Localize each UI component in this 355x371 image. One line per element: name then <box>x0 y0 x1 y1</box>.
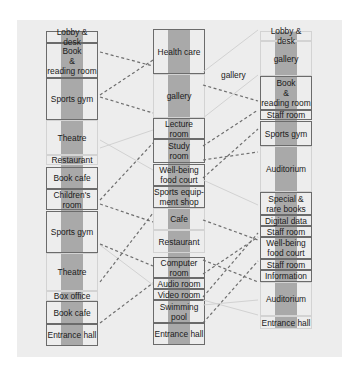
room-label: Auditorium <box>266 164 306 174</box>
room-block: Video room <box>153 289 205 300</box>
room-label: Box office <box>54 291 91 301</box>
room-label: Well-beingfood court <box>159 165 198 185</box>
room-label: Staff room <box>267 110 305 120</box>
room-block: Lectureroom <box>153 118 205 139</box>
room-label: Health care <box>158 47 201 57</box>
room-block: Audio room <box>153 278 205 289</box>
room-label: Book&reading room <box>261 78 310 108</box>
room-label: Studyroom <box>168 141 189 161</box>
room-label: Entrance hall <box>262 318 311 328</box>
room-label: Theatre <box>58 267 87 277</box>
room-label: Swimmingpool <box>160 302 199 322</box>
room-block: Entrance hall <box>260 316 312 329</box>
room-block: Book cafe <box>46 301 98 324</box>
room-block: Sports gym <box>260 121 312 146</box>
room-block: Theatre <box>46 253 98 291</box>
room-block: Digital data <box>260 215 312 226</box>
room-label: Information <box>265 271 307 281</box>
room-label: Sports equip-ment shop <box>154 187 204 207</box>
room-label: Entrance hall <box>48 330 97 340</box>
room-label: Video room <box>158 290 201 300</box>
room-label: Cafe <box>170 214 188 224</box>
room-block: Entrance hall <box>153 323 205 345</box>
room-label: gallery <box>274 54 299 64</box>
room-label: Lectureroom <box>165 119 193 139</box>
room-label: Lobby & desk <box>261 26 311 46</box>
room-label: Staff room <box>267 260 305 270</box>
gallery-floating-label: gallery <box>221 70 246 80</box>
room-label: Restaurant <box>52 155 93 165</box>
room-label: Theatre <box>58 133 87 143</box>
diagram-panel: Lobby & deskBook&reading roomSports gymT… <box>17 20 342 357</box>
room-block: Sports gym <box>46 78 98 120</box>
room-block: Well-beingfood court <box>153 164 205 186</box>
room-block: Auditorium <box>260 146 312 192</box>
room-label: Computerroom <box>161 258 198 278</box>
room-block: Lobby & desk <box>260 31 312 41</box>
room-block: Box office <box>46 291 98 301</box>
room-block: Sports gym <box>46 211 98 253</box>
room-label: Restaurant <box>159 237 200 247</box>
room-label: Staff room <box>267 227 305 237</box>
room-label: Digital data <box>265 216 307 226</box>
room-label: Book&reading room <box>47 46 96 76</box>
room-label: Entrance hall <box>155 329 204 339</box>
room-label: Sports gym <box>265 129 307 139</box>
room-label: Sports gym <box>51 227 93 237</box>
room-block: gallery <box>260 41 312 76</box>
room-label: Well-beingfood court <box>266 238 305 258</box>
room-block: Book&reading room <box>260 76 312 110</box>
room-block: Book&reading room <box>46 43 98 78</box>
room-block: Health care <box>153 29 205 74</box>
room-label: Auditorium <box>266 294 306 304</box>
room-block: Children'sroom <box>46 189 98 210</box>
room-label: Special &rare books <box>266 194 306 214</box>
room-block: Book cafe <box>46 167 98 189</box>
room-block: Special &rare books <box>260 192 312 215</box>
room-block: Staff room <box>260 259 312 270</box>
room-block: Lobby & desk <box>46 31 98 43</box>
room-block: Staff room <box>260 110 312 120</box>
room-block: Computerroom <box>153 257 205 278</box>
room-block: Staff room <box>260 226 312 237</box>
room-block: Information <box>260 270 312 282</box>
room-block: Auditorium <box>260 282 312 316</box>
room-block: Restaurant <box>46 155 98 165</box>
room-label: gallery <box>167 91 192 101</box>
room-label: Book cafe <box>53 173 90 183</box>
room-label: Children'sroom <box>54 190 91 210</box>
room-block: Restaurant <box>153 230 205 253</box>
room-block: Swimmingpool <box>153 300 205 323</box>
room-block: Cafe <box>153 208 205 230</box>
room-label: Sports gym <box>51 94 93 104</box>
room-block: Studyroom <box>153 139 205 163</box>
room-label: Audio room <box>158 279 201 289</box>
room-block: Well-beingfood court <box>260 237 312 259</box>
room-label: Lobby & desk <box>47 27 97 47</box>
room-block: gallery <box>153 74 205 118</box>
room-block: Theatre <box>46 120 98 155</box>
room-label: Book cafe <box>53 308 90 318</box>
room-block: Sports equip-ment shop <box>153 186 205 208</box>
room-block: Entrance hall <box>46 324 98 346</box>
